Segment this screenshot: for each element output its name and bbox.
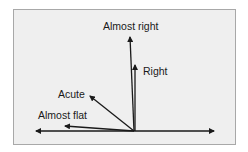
almost-right-arrow: [130, 37, 134, 131]
label-almost-right: Almost right: [103, 21, 158, 32]
label-right: Right: [143, 66, 168, 77]
label-acute: Acute: [58, 89, 85, 100]
label-almost-flat: Almost flat: [38, 110, 87, 121]
acute-arrow: [90, 96, 134, 131]
almost-flat-arrow: [65, 126, 134, 131]
